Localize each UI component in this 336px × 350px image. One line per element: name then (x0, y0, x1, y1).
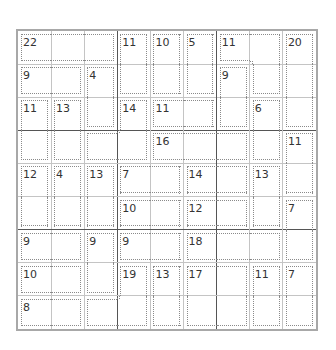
cage-outline (21, 100, 48, 101)
cage-outline (217, 133, 247, 134)
cage-outline (120, 233, 150, 234)
cell-divider (282, 31, 283, 329)
cage-sum: 11 (155, 103, 169, 114)
cage-outline (51, 34, 84, 35)
cage-outline (286, 163, 287, 193)
cage-outline (253, 130, 254, 160)
cell-divider (150, 31, 151, 329)
cage-outline (153, 266, 180, 267)
cage-outline (87, 325, 117, 326)
cage-outline (146, 266, 147, 296)
cage-outline (87, 133, 88, 160)
cage-outline (187, 233, 217, 234)
cage-outline (279, 100, 280, 130)
cage-outline (51, 266, 81, 267)
cell-divider (18, 262, 316, 263)
cage-sum: 4 (56, 169, 63, 180)
cage-outline (113, 166, 114, 196)
cage-outline (51, 325, 81, 326)
cage-sum: 10 (155, 37, 169, 48)
cage-outline (187, 266, 217, 267)
cage-outline (150, 192, 180, 193)
cage-outline (220, 126, 247, 127)
cage-outline (253, 325, 280, 326)
cage-outline (21, 259, 51, 260)
cage-sum: 6 (255, 103, 262, 114)
cage-sum: 14 (189, 169, 203, 180)
cage-outline (47, 130, 48, 160)
cage-outline (47, 100, 48, 130)
cage-outline (120, 100, 121, 130)
cell-divider (18, 97, 316, 98)
cage-sum: 9 (23, 70, 30, 81)
cage-sum: 7 (288, 269, 295, 280)
cage-outline (87, 159, 117, 160)
cage-outline (87, 299, 117, 300)
cage-outline (120, 93, 147, 94)
cage-outline (217, 225, 247, 226)
cage-outline (187, 259, 217, 260)
cage-outline (212, 100, 213, 127)
cell-divider (18, 64, 316, 65)
cell-divider (249, 31, 250, 329)
cage-outline (312, 230, 313, 260)
cage-outline (21, 166, 22, 196)
cage-outline (153, 34, 154, 64)
cage-outline (54, 197, 55, 227)
cage-outline (184, 159, 217, 160)
cell-divider (51, 31, 52, 329)
cage-outline (279, 130, 280, 160)
cage-outline (217, 159, 247, 160)
cell-divider (18, 295, 316, 296)
cell-divider (18, 196, 316, 197)
cage-outline (51, 67, 81, 68)
cage-sum: 11 (122, 37, 136, 48)
cage-outline (253, 93, 280, 94)
cage-outline (184, 100, 214, 101)
cage-outline (87, 67, 114, 68)
cage-outline (21, 67, 51, 68)
cage-outline (120, 34, 147, 35)
cage-outline (51, 299, 81, 300)
cage-outline (150, 166, 180, 167)
cage-outline (286, 34, 313, 35)
cage-outline (120, 266, 147, 267)
cage-outline (220, 97, 221, 127)
cage-outline (286, 200, 287, 230)
cage-outline (217, 192, 247, 193)
cage-outline (246, 133, 247, 160)
cage-outline (153, 159, 183, 160)
cage-outline (146, 34, 147, 64)
cage-outline (179, 64, 180, 94)
cage-outline (87, 233, 88, 263)
cage-outline (54, 166, 81, 167)
cage-outline (286, 192, 313, 193)
cage-outline (80, 266, 81, 293)
cage-sum: 9 (89, 236, 96, 247)
cage-outline (279, 166, 280, 196)
cage-outline (113, 233, 114, 263)
cage-outline (286, 259, 313, 260)
cage-outline (113, 263, 114, 293)
cage-outline (87, 166, 88, 196)
killer-sudoku-board: 2211105112094911131411616111241371413101… (16, 29, 318, 331)
cage-outline (312, 34, 313, 64)
cage-outline (253, 225, 280, 226)
cage-outline (286, 230, 287, 260)
cage-outline (286, 64, 287, 97)
cage-outline (51, 233, 81, 234)
cage-outline (113, 97, 114, 127)
cage-outline (54, 159, 81, 160)
cage-outline (187, 34, 214, 35)
cage-outline (286, 34, 287, 64)
cage-outline (217, 266, 247, 267)
cage-outline (120, 192, 150, 193)
cage-sum: 10 (122, 203, 136, 214)
cage-outline (21, 130, 22, 160)
cage-outline (87, 67, 88, 97)
cage-outline (187, 233, 188, 260)
cage-outline (279, 197, 280, 227)
cage-outline (179, 34, 180, 64)
cage-outline (80, 67, 81, 94)
cage-outline (117, 159, 147, 160)
